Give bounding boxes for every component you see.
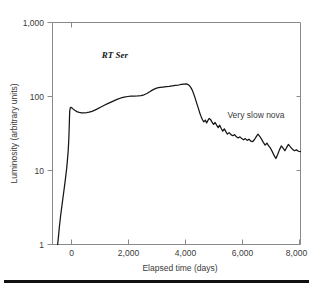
y-tick-label-100: 100 [30,92,44,102]
y-tick-label-1: 1 [39,240,44,250]
x-tick-label-0: 0 [69,248,74,258]
annotation-very-slow-nova: Very slow nova [227,110,284,120]
light-curve-line [58,84,301,245]
figure-container: 1,000 100 10 1 0 2,000 4,000 6,000 8,000… [0,0,316,287]
footer-rule [4,280,309,283]
plot-frame [53,23,301,245]
annotation-rt-ser: RT Ser [101,50,129,60]
x-tick-label-2000: 2,000 [118,248,140,258]
x-axis-tick-labels: 0 2,000 4,000 6,000 8,000 [69,248,307,258]
x-axis-title: Elapsed time (days) [142,263,217,273]
y-tick-label-10: 10 [35,166,45,176]
y-axis-ticks [48,23,301,245]
x-tick-label-8000: 8,000 [286,248,308,258]
y-tick-label-1000: 1,000 [23,18,45,28]
x-tick-label-6000: 6,000 [232,248,254,258]
luminosity-light-curve-chart: 1,000 100 10 1 0 2,000 4,000 6,000 8,000… [0,0,316,287]
y-axis-tick-labels: 1,000 100 10 1 [23,18,45,250]
x-tick-label-4000: 4,000 [175,248,197,258]
y-axis-title: Luminosity (arbitrary units) [9,83,19,183]
